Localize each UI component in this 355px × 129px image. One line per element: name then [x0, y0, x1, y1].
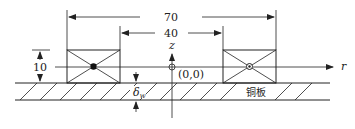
coil-plate-diagram: 70 40 z r (0,0)	[0, 0, 355, 129]
z-axis-label: z	[168, 39, 175, 52]
right-coil	[223, 50, 276, 83]
z-axis: z	[168, 39, 175, 118]
current-in-dot-icon	[90, 63, 96, 69]
diagram-svg: 70 40 z r (0,0)	[0, 0, 355, 129]
plate-label: 铜板	[246, 86, 266, 98]
copper-plate: 铜板	[15, 83, 330, 100]
origin-label: (0,0)	[178, 68, 204, 81]
dimension-plate-thickness: δw	[130, 72, 146, 112]
left-coil	[67, 50, 120, 83]
origin-marker-icon	[169, 64, 175, 70]
dimension-10-label: 10	[33, 61, 47, 74]
r-axis-label: r	[341, 60, 347, 73]
dimension-70-label: 70	[164, 11, 178, 24]
current-out-cross-icon	[247, 64, 253, 70]
dimension-10: 10	[32, 50, 50, 81]
